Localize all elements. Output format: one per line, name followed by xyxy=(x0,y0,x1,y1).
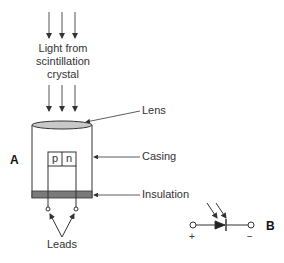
leads xyxy=(46,166,78,211)
light-label-line-3: crystal xyxy=(28,68,98,81)
photodiode-diagram xyxy=(0,0,284,263)
light-label-line-1: Light from xyxy=(28,42,98,55)
panel-b-label: B xyxy=(266,219,275,233)
photodiode-symbol xyxy=(190,203,254,231)
lens-callout xyxy=(86,111,140,122)
light-source-label: Light from scintillation crystal xyxy=(28,42,98,81)
insulation-band xyxy=(32,191,92,198)
n-label: n xyxy=(66,152,72,164)
panel-a-label: A xyxy=(10,153,19,167)
p-label: p xyxy=(52,152,58,164)
leads-pointer-arrows xyxy=(50,214,74,237)
incoming-light-arrows-top xyxy=(49,12,75,38)
insulation-label: Insulation xyxy=(142,188,189,200)
lens xyxy=(32,121,92,129)
incoming-light-arrows-bottom xyxy=(49,85,75,111)
light-label-line-2: scintillation xyxy=(28,55,98,68)
casing-label: Casing xyxy=(142,150,176,162)
lens-label: Lens xyxy=(142,104,166,116)
minus-sign: − xyxy=(247,231,253,242)
plus-sign: + xyxy=(189,231,195,242)
leads-label: Leads xyxy=(47,238,77,250)
